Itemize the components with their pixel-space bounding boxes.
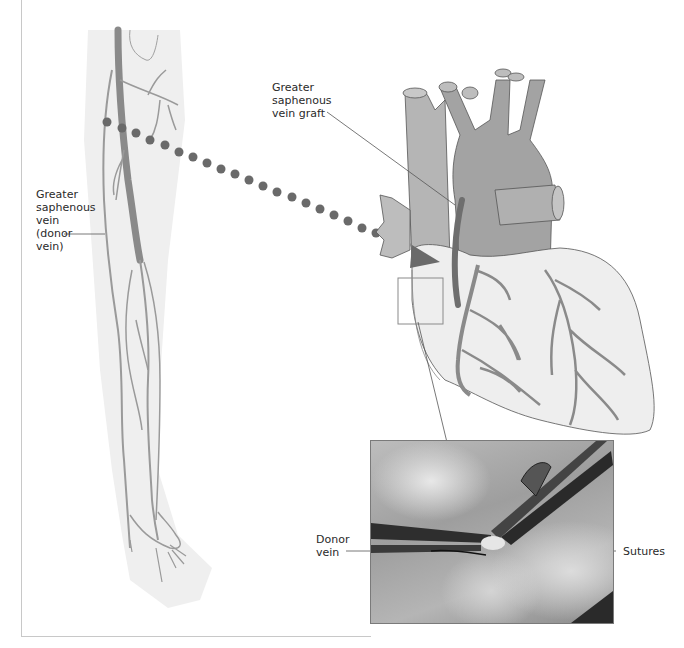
- label-graft: Greater saphenous vein graft: [272, 81, 332, 120]
- label-donor-vein-leg: Greater saphenous vein (donor vein): [36, 188, 96, 253]
- label-sutures: Sutures: [623, 545, 665, 558]
- surgical-photo-inset: [370, 440, 614, 624]
- heart-illustration: [376, 69, 654, 434]
- surgical-instruments: [371, 441, 613, 623]
- label-donor-vein-photo: Donor vein: [316, 533, 349, 559]
- leg-illustration: [84, 30, 212, 608]
